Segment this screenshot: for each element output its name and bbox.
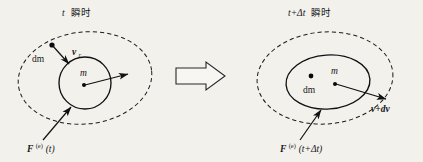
left-dm-label: dm (32, 54, 45, 64)
mechanics-figure: t 瞬时 m dm v r (0, 0, 423, 162)
left-caption-cjk: 瞬时 (71, 7, 91, 18)
left-relative-velocity-label: v r (72, 47, 82, 58)
left-external-force-label: F (e) (t) (26, 140, 55, 155)
right-caption-variable: t+Δt (288, 8, 306, 18)
left-body-mass-label: m (80, 68, 87, 78)
right-dm-dot (309, 74, 314, 79)
left-external-force-arrow (43, 107, 71, 140)
left-body-velocity-arrow (85, 74, 128, 85)
left-relative-velocity-arrow (52, 45, 69, 64)
right-body-mass-label: m (331, 66, 338, 76)
right-dm-label: dm (303, 85, 316, 95)
right-panel: t+Δt 瞬时 m dm v+dv F (e (254, 7, 396, 155)
left-panel: t 瞬时 m dm v r (14, 7, 157, 155)
left-caption-variable: t (62, 8, 65, 18)
right-body-velocity-label: v+dv (371, 104, 390, 114)
right-external-force-arrow (300, 110, 321, 140)
left-inner-body (59, 57, 111, 109)
right-external-force-label: F (e) (t+Δt) (279, 140, 322, 155)
transition-arrow (176, 62, 225, 90)
right-panel-caption: t+Δt 瞬时 (288, 7, 331, 18)
right-inner-body (284, 52, 372, 112)
left-panel-caption: t 瞬时 (62, 7, 91, 18)
left-outer-boundary (14, 25, 157, 131)
right-caption-cjk: 瞬时 (311, 7, 331, 18)
